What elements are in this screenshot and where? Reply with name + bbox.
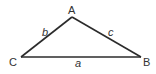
side-c-line <box>72 17 141 57</box>
side-label-b: b <box>42 26 48 38</box>
side-label-c: c <box>108 26 114 38</box>
side-label-a: a <box>75 57 81 69</box>
vertex-label-b: B <box>143 56 150 68</box>
triangle-diagram: A B C b c a <box>0 0 156 74</box>
vertex-label-c: C <box>9 56 17 68</box>
vertex-label-a: A <box>68 4 76 16</box>
